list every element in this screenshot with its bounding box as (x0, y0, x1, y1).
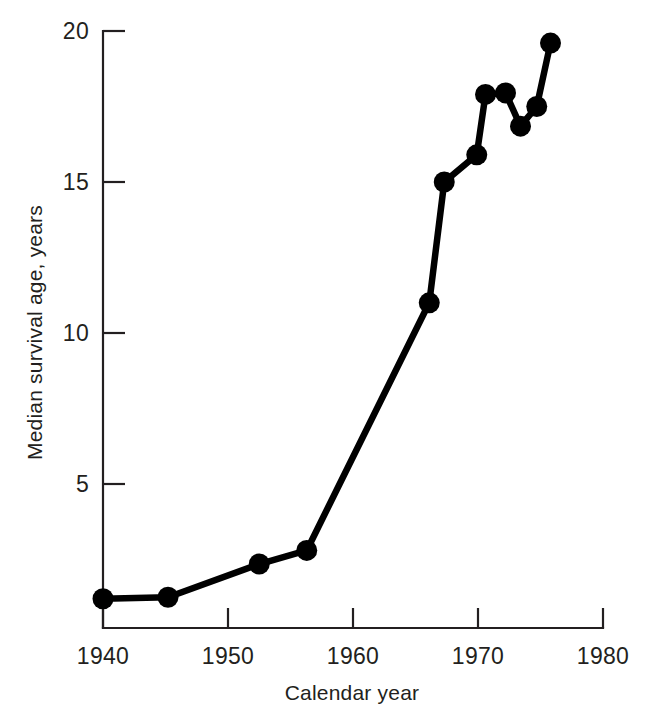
y-tick-label-5: 5 (76, 471, 89, 497)
data-point-10 (526, 96, 547, 117)
data-point-8 (495, 82, 516, 103)
y-axis-title: Median survival age, years (23, 205, 46, 460)
data-point-1 (158, 587, 179, 608)
median-survival-age-line-chart: 5101520 19401950196019701980 Median surv… (0, 0, 648, 714)
data-point-11 (540, 33, 561, 54)
data-point-7 (475, 84, 496, 105)
data-point-9 (510, 116, 531, 137)
x-tick-label-1950: 1950 (202, 643, 254, 669)
data-point-0 (93, 588, 114, 609)
data-point-5 (434, 172, 455, 193)
y-tick-label-20: 20 (63, 18, 89, 44)
x-tick-label-1960: 1960 (327, 643, 379, 669)
data-point-4 (419, 292, 440, 313)
y-tick-label-10: 10 (63, 320, 89, 346)
data-point-3 (296, 540, 317, 561)
x-tick-label-1980: 1980 (577, 643, 629, 669)
data-point-6 (466, 144, 487, 165)
y-tick-label-15: 15 (63, 169, 89, 195)
x-axis-title: Calendar year (285, 681, 420, 704)
x-tick-label-1940: 1940 (77, 643, 129, 669)
data-point-2 (249, 554, 270, 575)
x-tick-label-1970: 1970 (452, 643, 504, 669)
chart-figure: 5101520 19401950196019701980 Median surv… (0, 0, 648, 714)
